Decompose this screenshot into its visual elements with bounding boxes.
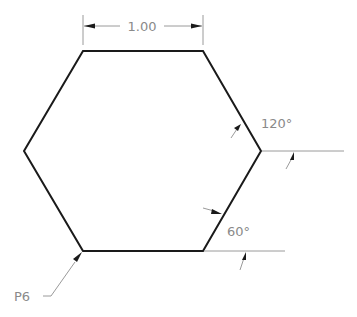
point-label: P6 [14, 289, 30, 304]
dimension-label: 1.00 [128, 19, 157, 34]
angle-leader-120-edge [231, 129, 237, 138]
angle-arrow-60-ref [242, 252, 246, 260]
angle-label-120: 120° [261, 116, 292, 131]
angle-label-60: 60° [227, 224, 250, 239]
angle-arrow-60-edge [211, 209, 222, 214]
point-leader-line [51, 262, 75, 296]
point-leader-arrow [73, 252, 82, 262]
hexagon-diagram: 1.00 120° 60° P6 [0, 0, 357, 317]
dimension-arrow-right [191, 24, 202, 29]
angle-arrow-120-ref [290, 152, 294, 160]
hexagon-outline [24, 51, 261, 251]
dimension-arrow-left [84, 24, 95, 29]
angle-arrow-120-edge [234, 124, 241, 131]
